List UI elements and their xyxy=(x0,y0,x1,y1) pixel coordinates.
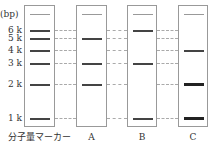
band-2k xyxy=(82,84,102,86)
band-5k xyxy=(30,38,50,40)
band-6k xyxy=(30,30,50,32)
band-5k xyxy=(82,38,102,40)
guide-2k xyxy=(55,84,76,85)
lane-label-marker: 分子量マーカー xyxy=(0,131,78,143)
unit-label: (bp) xyxy=(0,9,19,19)
band-2k xyxy=(30,84,50,86)
label-3k: 3 k xyxy=(0,58,22,68)
label-1k: 1 k xyxy=(0,113,22,123)
band-3k xyxy=(82,63,102,65)
band-1k xyxy=(184,117,204,120)
lane-c xyxy=(178,5,208,127)
label-2k: 2 k xyxy=(0,79,22,89)
well-line xyxy=(184,14,204,15)
band-4k xyxy=(184,50,204,52)
lane-label-c: C xyxy=(178,131,208,143)
guide-4k xyxy=(55,50,76,51)
guide-5k-ab xyxy=(107,38,127,39)
guide-6k-ab xyxy=(107,30,127,31)
lane-b xyxy=(127,5,157,127)
lane-marker xyxy=(24,5,55,127)
guide-4k-bc xyxy=(157,50,178,51)
well-line xyxy=(30,14,50,15)
guide-2k-ab xyxy=(107,84,127,85)
guide-4k-ab xyxy=(107,50,127,51)
well-line xyxy=(82,14,102,15)
label-4k: 4 k xyxy=(0,45,22,55)
band-2k xyxy=(184,83,204,86)
guide-3k-bc xyxy=(157,63,178,64)
guide-5k-bc xyxy=(157,38,178,39)
band-4k xyxy=(30,50,50,52)
label-5k: 5 k xyxy=(0,33,22,43)
band-1k xyxy=(30,118,50,120)
guide-1k xyxy=(55,118,76,119)
band-3k xyxy=(133,63,153,65)
band-6k xyxy=(133,30,153,32)
guide-1k-ab xyxy=(107,118,127,119)
lane-a xyxy=(76,5,107,127)
lane-label-a: A xyxy=(76,131,107,143)
guide-6k xyxy=(55,30,76,31)
guide-5k xyxy=(55,38,76,39)
well-line xyxy=(133,14,153,15)
guide-3k xyxy=(55,63,76,64)
guide-6k-bc xyxy=(157,30,178,31)
band-1k xyxy=(133,118,153,120)
guide-1k-bc xyxy=(157,118,178,119)
guide-2k-bc xyxy=(157,84,178,85)
band-3k xyxy=(30,63,50,65)
guide-3k-ab xyxy=(107,63,127,64)
lane-label-b: B xyxy=(127,131,157,143)
